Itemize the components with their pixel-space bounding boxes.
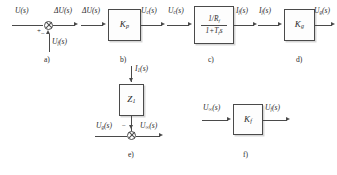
panel-a-summing-junction xyxy=(44,21,53,30)
panel-e-caption: e) xyxy=(128,150,134,159)
panel-e-output-label: U∞(s) xyxy=(140,122,157,130)
panel-b-input-wire xyxy=(81,25,103,26)
panel-d-input-arrowhead xyxy=(278,22,282,26)
panel-c-caption: c) xyxy=(208,55,214,64)
panel-a-input-label: U(s) xyxy=(15,7,29,15)
panel-b-input-arrowhead xyxy=(102,22,106,26)
panel-a-feedback-label: Uf(s) xyxy=(52,38,67,46)
panel-d-gain-block: Kg xyxy=(284,9,315,41)
panel-e-top-input-arrowhead xyxy=(129,78,133,82)
panel-e-junction-top-arrowhead xyxy=(129,125,133,129)
panel-c-output-label: If(s) xyxy=(236,7,248,15)
panel-f-output-label: Uf(s) xyxy=(265,104,280,112)
panel-c-numerator: 1/Rf xyxy=(206,15,222,24)
panel-c-denominator: 1+Tfs xyxy=(203,26,224,35)
panel-e-output-arrowhead xyxy=(159,133,163,137)
panel-d-input-wire xyxy=(258,25,279,26)
panel-e-left-input-label: Ug(s) xyxy=(96,122,112,130)
panel-f-input-label: U∞(s) xyxy=(203,104,220,112)
panel-e-impedance-label: Z1 xyxy=(127,95,135,104)
panel-a-caption: a) xyxy=(44,55,50,64)
block-diagram-figure: U(s) + − Uf(s) ΔU(s) a) ΔU(s) Kp Uc(s) b… xyxy=(0,0,337,175)
panel-e-top-input-label: I1(s) xyxy=(135,65,148,73)
panel-b-input-label: ΔU(s) xyxy=(82,7,100,15)
panel-e-impedance-block: Z1 xyxy=(119,84,144,116)
panel-a-output-arrowhead xyxy=(74,22,78,26)
panel-b-output-arrowhead xyxy=(161,22,165,26)
panel-d-input-label: If(s) xyxy=(259,7,271,15)
panel-b-gain-label: Kp xyxy=(120,20,129,29)
panel-a-sign-bottom: − xyxy=(41,31,45,38)
panel-f-caption: f) xyxy=(243,150,248,159)
panel-a-output-label: ΔU(s) xyxy=(54,7,72,15)
panel-f-input-wire xyxy=(202,120,228,121)
panel-f-output-arrowhead xyxy=(286,117,290,121)
panel-a-feedback-arrowhead xyxy=(46,30,50,34)
panel-b-caption: b) xyxy=(120,55,126,64)
panel-a-input-wire xyxy=(12,25,43,26)
panel-d-output-wire xyxy=(315,25,332,26)
panel-c-output-wire xyxy=(234,25,254,26)
panel-d-output-arrowhead xyxy=(331,22,335,26)
panel-c-input-wire xyxy=(167,25,189,26)
panel-c-fraction: 1/Rf 1+Tfs xyxy=(201,15,227,36)
panel-f-output-wire xyxy=(263,120,287,121)
panel-f-gain-block: Kf xyxy=(233,104,263,135)
panel-a-output-wire xyxy=(53,25,75,26)
panel-e-left-input-wire xyxy=(95,136,127,137)
panel-b-output-label: Uc(s) xyxy=(141,7,157,15)
panel-a-feedback-wire xyxy=(49,34,50,52)
panel-b-gain-block: Kp xyxy=(108,9,141,41)
panel-c-transfer-function-block: 1/Rf 1+Tfs xyxy=(194,6,234,44)
panel-b-output-wire xyxy=(141,25,162,26)
panel-d-output-label: Ug(s) xyxy=(314,7,330,15)
panel-f-input-arrowhead xyxy=(227,117,231,121)
panel-e-summing-junction xyxy=(127,131,136,140)
panel-d-caption: d) xyxy=(296,55,302,64)
panel-c-output-arrowhead xyxy=(253,22,257,26)
panel-c-input-label: Uc(s) xyxy=(168,7,184,15)
panel-c-input-arrowhead xyxy=(188,22,192,26)
panel-e-sign-top: − xyxy=(122,123,126,130)
panel-e-output-wire xyxy=(136,136,160,137)
panel-f-gain-label: Kf xyxy=(244,115,252,124)
panel-d-gain-label: Kg xyxy=(295,20,304,29)
